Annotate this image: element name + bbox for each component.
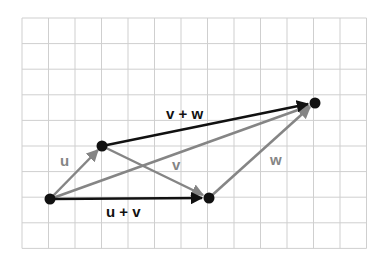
label-v: v [172,156,181,173]
vector-v [102,146,203,195]
grid [22,18,367,248]
label-u-plus-v: u + v [106,203,141,220]
vector-diagram: u v w u + v v + w [0,0,382,261]
label-w: w [269,151,282,168]
label-v-plus-w: v + w [166,105,203,122]
point-origin [45,194,56,205]
point-uv-end [204,193,215,204]
vector-u-plus-v [50,198,202,199]
vector-v-plus-w [102,104,308,146]
point-u-end [97,141,108,152]
label-u: u [60,152,69,169]
point-vw-end [310,98,321,109]
